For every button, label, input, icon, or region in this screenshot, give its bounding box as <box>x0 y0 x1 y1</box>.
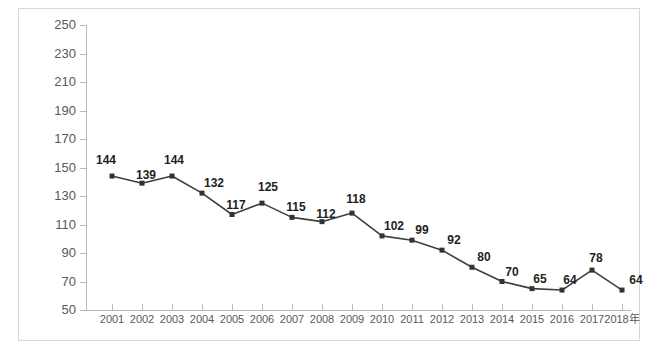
data-point-2009 <box>350 211 355 216</box>
data-label-2008: 112 <box>316 208 335 220</box>
data-label-2007: 115 <box>286 201 305 213</box>
series-markers <box>110 174 625 293</box>
data-label-2010: 102 <box>384 220 404 232</box>
data-point-2006 <box>260 201 265 206</box>
data-point-2013 <box>470 265 475 270</box>
data-label-2015: 65 <box>533 273 546 285</box>
data-point-2005 <box>230 212 235 217</box>
data-point-2010 <box>380 233 385 238</box>
data-label-2005: 117 <box>226 199 245 211</box>
data-label-2017: 78 <box>589 252 602 264</box>
data-point-2001 <box>110 174 115 179</box>
data-point-2004 <box>200 191 205 196</box>
data-label-2012: 92 <box>447 234 460 246</box>
data-point-2018年 <box>620 288 625 293</box>
data-label-2014: 70 <box>505 266 518 278</box>
data-point-2011 <box>410 238 415 243</box>
series-line-typhoon-track-error <box>0 0 660 351</box>
data-point-2016 <box>560 288 565 293</box>
data-label-2018年: 64 <box>629 274 642 286</box>
data-label-2002: 139 <box>136 169 156 181</box>
data-label-2001: 144 <box>96 154 116 166</box>
data-point-2014 <box>500 279 505 284</box>
data-label-2003: 144 <box>164 154 184 166</box>
data-label-2009: 118 <box>346 193 365 205</box>
data-label-2013: 80 <box>477 251 490 263</box>
data-label-2011: 99 <box>415 224 428 236</box>
data-point-2017 <box>590 268 595 273</box>
data-point-2007 <box>290 215 295 220</box>
data-label-2004: 132 <box>204 177 224 189</box>
data-label-2006: 125 <box>258 181 278 193</box>
data-point-2012 <box>440 248 445 253</box>
data-point-2003 <box>170 174 175 179</box>
plot-area: 台风路径预报误差（km） 507090110130150170190210230… <box>0 0 660 351</box>
chart-figure: 台风路径预报误差（km） 507090110130150170190210230… <box>0 0 660 351</box>
data-point-2015 <box>530 286 535 291</box>
data-label-2016: 64 <box>563 274 576 286</box>
